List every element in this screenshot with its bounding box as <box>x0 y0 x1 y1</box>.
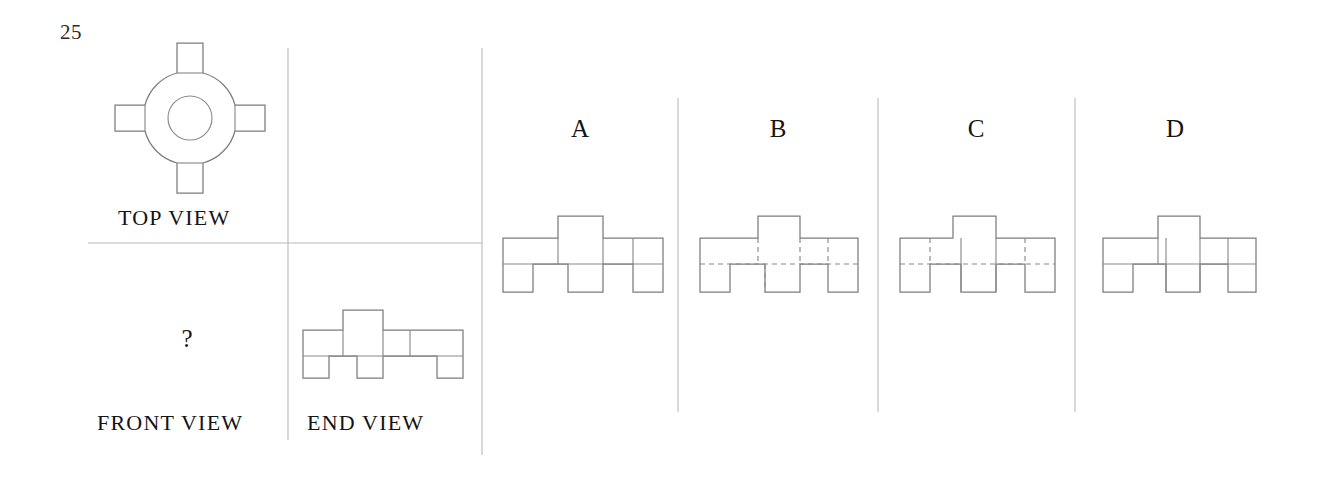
top-view-drawing <box>115 43 265 193</box>
option-c-drawing[interactable] <box>900 216 1055 292</box>
missing-view-question-mark: ? <box>167 325 207 353</box>
option-letter-c[interactable]: C <box>946 115 1006 143</box>
option-d-outline <box>1103 216 1256 292</box>
option-letter-d[interactable]: D <box>1145 115 1205 143</box>
worksheet-page: .ln { stroke:#8a8a8a; stroke-width:1.15;… <box>0 0 1319 482</box>
question-number: 25 <box>60 20 82 45</box>
option-d-drawing[interactable] <box>1103 216 1256 292</box>
top-view-bore-circle <box>168 96 212 140</box>
option-letter-b[interactable]: B <box>748 115 808 143</box>
divider-lines <box>88 48 1075 455</box>
option-b-outline <box>700 216 858 292</box>
option-a-drawing[interactable] <box>503 216 663 292</box>
label-front-view: FRONT VIEW <box>97 410 243 436</box>
option-a-outline <box>503 216 663 292</box>
option-b-drawing[interactable] <box>700 216 858 292</box>
end-view-drawing <box>303 310 463 378</box>
label-end-view: END VIEW <box>307 410 424 436</box>
option-c-outline <box>900 216 1055 292</box>
option-letter-a[interactable]: A <box>550 115 610 143</box>
label-top-view: TOP VIEW <box>118 205 230 231</box>
top-view-outline <box>115 43 265 193</box>
